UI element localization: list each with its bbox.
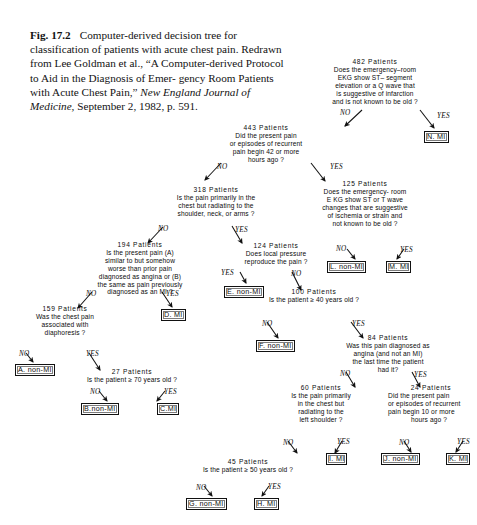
- edge-label-125-no: NO: [336, 245, 347, 253]
- node-482-count: 482 Patients: [300, 58, 450, 66]
- node-125-q2: E KG show ST or T wave: [298, 196, 432, 204]
- edge-label-125-yes: YES: [400, 246, 413, 254]
- edge-label-194-no: NO: [86, 290, 97, 298]
- edge-label-45-no: NO: [196, 484, 207, 492]
- edge-label-159-no: NO: [19, 350, 30, 358]
- node-482-q4: is suggestive of infarction: [300, 90, 450, 98]
- node-84-count: 84 Patients: [318, 334, 458, 342]
- node-24-q1: Did the present pain: [388, 392, 477, 400]
- node-482-q5: and is not known to be old ?: [300, 98, 450, 106]
- leaf-C-MI: C.MI: [157, 403, 179, 415]
- node-125-q5: not known to be old ?: [298, 220, 432, 228]
- edge-label-45-yes: YES: [268, 483, 281, 491]
- node-45: 45 Patients Is the patient ≥ 50 years ol…: [186, 458, 310, 474]
- edge-label-159-yes: YES: [86, 350, 99, 358]
- node-100: 100 Patients Is the patient ≥ 40 years o…: [248, 288, 380, 304]
- node-194-q5: the same as pain previously: [80, 281, 200, 289]
- node-84-q1: Was this pain diagnosed as: [318, 342, 458, 350]
- edge-label-60-yes: YES: [337, 438, 350, 446]
- node-45-count: 45 Patients: [186, 458, 310, 466]
- node-84-q4: had it?: [318, 366, 458, 374]
- leaf-B-non-MI: B.non-MI: [81, 403, 119, 415]
- figure-number: Fig. 17.2: [30, 29, 71, 41]
- node-194-q3: worse than prior pain: [80, 265, 200, 273]
- node-194-q4: diagnosed as angina or (B): [80, 273, 200, 281]
- node-482-q2: EKG show ST– segment: [300, 74, 450, 82]
- edge-label-482-no: NO: [340, 109, 351, 117]
- node-84-q3: the last time the patient: [318, 358, 458, 366]
- edge-label-84-no: NO: [340, 370, 351, 378]
- node-124-q1: Does local pressure: [222, 250, 330, 258]
- edge-label-318-no: NO: [158, 225, 169, 233]
- edge-label-194-yes: YES: [166, 290, 179, 298]
- node-159-q2: associated with: [16, 321, 114, 329]
- node-24-count: 24 Patients: [388, 384, 477, 392]
- edge-label-443-no: NO: [217, 163, 228, 171]
- edge-label-443-yes: YES: [330, 163, 343, 171]
- node-84-q2: angina (and not an MI): [318, 350, 458, 358]
- edge-label-482-yes: YES: [437, 112, 450, 120]
- edge-label-60-no: NO: [283, 439, 294, 447]
- node-125: 125 Patients Does the emergency- room E …: [298, 180, 432, 227]
- leaf-L-non-MI: L. non-MI: [327, 261, 366, 273]
- node-443: 443 Patients Did the present pain or epi…: [196, 124, 336, 164]
- edge-label-24-no: NO: [399, 439, 410, 447]
- node-24: 24 Patients Did the present pain or epis…: [388, 384, 477, 424]
- leaf-H-MI: H. MI: [254, 498, 279, 510]
- leaf-J-non-MI: J. non-MI: [381, 453, 420, 465]
- node-24-q2: or episodes of recurrent: [388, 400, 477, 408]
- leaf-K-MI: K. MI: [446, 453, 470, 465]
- node-194-q2: similar to but somehow: [80, 257, 200, 265]
- node-443-q1: Did the present pain: [196, 132, 336, 140]
- node-318-q3: shoulder, neck, or arms ?: [148, 210, 284, 218]
- node-60-q4: left shoulder ?: [275, 416, 367, 424]
- node-159-q3: diaphoresis ?: [16, 329, 114, 337]
- leaf-D-MI: D. MI: [161, 309, 186, 321]
- node-318-count: 318 Patients: [148, 186, 284, 194]
- node-125-q4: of ischemia or strain and: [298, 212, 432, 220]
- node-24-q4: hours ago ?: [388, 416, 477, 424]
- node-194: 194 Patients Is the present pain (A) sim…: [80, 241, 200, 296]
- node-318-q2: chest but radiating to the: [148, 202, 284, 210]
- node-318: 318 Patients Is the pain primarily in th…: [148, 186, 284, 218]
- node-24-q3: pain begin 10 or more: [388, 408, 477, 416]
- leaf-I-MI: I. MI: [326, 453, 347, 465]
- node-60-q1: Is the pain primarily: [275, 392, 367, 400]
- node-443-count: 443 Patients: [196, 124, 336, 132]
- node-60: 60 Patients Is the pain primarily in the…: [275, 384, 367, 424]
- node-27-count: 27 Patients: [70, 368, 194, 376]
- node-124-q2: reproduce the pain ?: [222, 258, 330, 266]
- node-60-q3: radiating to the: [275, 408, 367, 416]
- caption-line-6: September 2, 1982, p. 591.: [77, 100, 198, 112]
- figure-page: Fig. 17.2Computer-derived decision tree …: [0, 0, 477, 525]
- node-124-count: 124 Patients: [222, 242, 330, 250]
- node-84: 84 Patients Was this pain diagnosed as a…: [318, 334, 458, 374]
- node-124: 124 Patients Does local pressure reprodu…: [222, 242, 330, 266]
- node-482-q1: Does the emergency–room: [300, 66, 450, 74]
- node-60-count: 60 Patients: [275, 384, 367, 392]
- node-159: 159 Patients Was the chest pain associat…: [16, 305, 114, 337]
- node-482: 482 Patients Does the emergency–room EKG…: [300, 58, 450, 105]
- edge-label-124-yes: YES: [221, 269, 234, 277]
- node-482-q3: elevation or a Q wave that: [300, 82, 450, 90]
- edge-label-100-no: NO: [262, 320, 273, 328]
- node-194-q6: diagnosed as an MI ?: [80, 288, 200, 296]
- node-45-q1: Is the patient ≥ 50 years old ?: [186, 466, 310, 474]
- node-100-q1: Is the patient ≥ 40 years old ?: [248, 296, 380, 304]
- node-194-q1: Is the present pain (A): [80, 249, 200, 257]
- node-125-q1: Does the emergency- room: [298, 188, 432, 196]
- edge-label-318-yes: YES: [235, 226, 248, 234]
- leaf-A-non-MI: A. non-MI: [15, 364, 55, 376]
- node-27: 27 Patients Is the patient ≥ 70 years ol…: [70, 368, 194, 384]
- node-443-q2: or episodes of recurrent: [196, 140, 336, 148]
- node-100-count: 100 Patients: [248, 288, 380, 296]
- node-27-q1: Is the patient ≥ 70 years old ?: [70, 376, 194, 384]
- edge-label-27-yes: YES: [164, 388, 177, 396]
- leaf-G-non-MI: G. non-MI: [186, 498, 227, 510]
- node-318-q1: Is the pain primarily in the: [148, 194, 284, 202]
- edge-label-100-yes: YES: [352, 320, 365, 328]
- node-194-count: 194 Patients: [80, 241, 200, 249]
- node-443-q3: pain begin 42 or more: [196, 148, 336, 156]
- leaf-M-MI: M. MI: [386, 261, 411, 273]
- edge-label-24-yes: YES: [457, 438, 470, 446]
